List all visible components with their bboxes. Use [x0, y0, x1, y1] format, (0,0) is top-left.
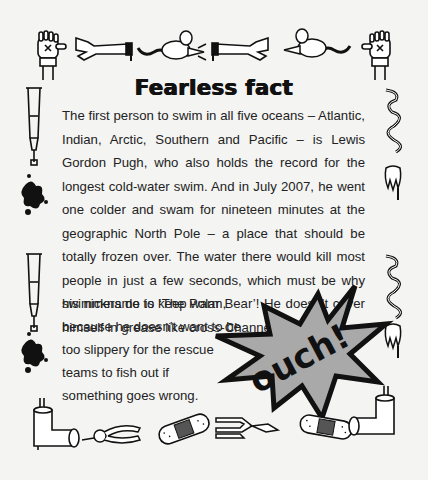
- pliers-icon: [214, 412, 280, 446]
- streamer-icon: [382, 86, 404, 154]
- fact-line: something goes wrong.: [62, 384, 198, 408]
- crutch-icon: [24, 252, 44, 332]
- crutch-icon: [24, 86, 44, 166]
- glove-hand-icon: [360, 30, 396, 82]
- bandage-icon: [296, 412, 356, 442]
- tooth-icon: [384, 164, 402, 204]
- fact-line: teams to fish out if: [62, 361, 169, 385]
- bandage-icon: [154, 414, 214, 444]
- fact-line: swimmers do to keep warm,: [62, 292, 226, 316]
- glove-hand-icon: [32, 30, 68, 82]
- page-title: Fearless fact: [0, 76, 428, 100]
- leg-cast-icon: [348, 384, 398, 440]
- fact-line: too slippery for the rescue: [62, 338, 214, 362]
- pliers-icon: [80, 420, 144, 450]
- rat-icon: [136, 30, 208, 64]
- leg-cast-icon: [30, 396, 80, 452]
- ink-splat-icon: [20, 328, 50, 376]
- severed-hand-icon: [208, 32, 270, 62]
- severed-hand-icon: [74, 32, 136, 62]
- rat-icon: [280, 28, 352, 62]
- ink-splat-icon: [20, 170, 50, 218]
